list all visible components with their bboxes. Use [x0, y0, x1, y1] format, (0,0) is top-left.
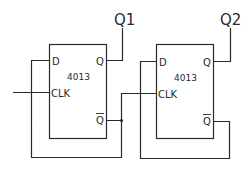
ff2-d-label: D — [159, 57, 167, 68]
ff1-q-label: Q — [96, 56, 104, 67]
q2-output-label: Q2 — [220, 11, 241, 29]
q1-output-label: Q1 — [114, 11, 135, 29]
ff1-d-label: D — [52, 56, 60, 67]
ff2-part-label: 4013 — [174, 73, 197, 83]
ff2-qbar-label: Q — [203, 116, 211, 127]
circuit-diagram: D 4013 CLK Q Q Q1 D 4013 CLK Q Q Q2 — [0, 0, 244, 170]
ff1-to-ff2-clock-wire — [122, 94, 157, 121]
ff2-q-label: Q — [203, 57, 211, 68]
ff2-clk-label: CLK — [158, 89, 178, 100]
q1-output-wire — [107, 28, 123, 61]
junction-dot — [120, 119, 123, 122]
q2-output-wire — [214, 28, 231, 62]
ff1-qbar-label: Q — [96, 115, 104, 126]
ff1-clk-label: CLK — [51, 88, 71, 99]
ff1-part-label: 4013 — [67, 72, 90, 82]
